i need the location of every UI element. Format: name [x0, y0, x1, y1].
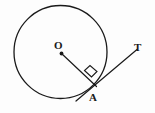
- geometry-figure: O A T: [0, 0, 155, 113]
- radius-line: [62, 54, 97, 87]
- label-center-O: O: [54, 40, 63, 51]
- right-angle-marker-icon: [85, 66, 98, 78]
- center-dot: [60, 52, 64, 56]
- geometry-canvas: [0, 0, 155, 113]
- label-tangent-point-A: A: [89, 92, 97, 103]
- label-tangent-end-T: T: [134, 42, 141, 53]
